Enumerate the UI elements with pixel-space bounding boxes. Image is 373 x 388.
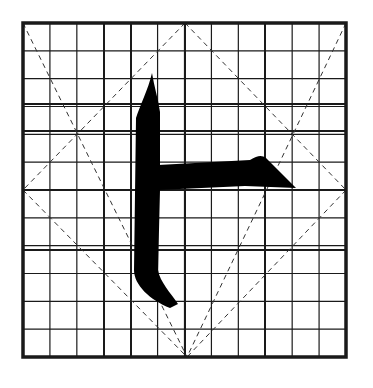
brush-stroke-horizontal [158, 156, 296, 190]
grid-bold-lines [23, 23, 346, 357]
calligraphy-grid [0, 0, 373, 388]
